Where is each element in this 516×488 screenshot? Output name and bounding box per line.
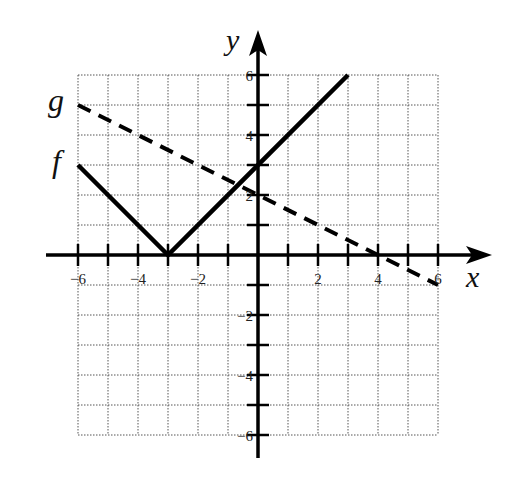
x-tick-label: 4 (374, 271, 382, 287)
function-g-label: g (48, 82, 64, 118)
y-tick-label: 2 (246, 188, 254, 204)
y-tick-label: −2 (237, 308, 253, 324)
x-tick-label: −6 (70, 271, 86, 287)
y-axis-label: y (223, 23, 240, 56)
x-tick-label: 6 (434, 271, 442, 287)
y-tick-label: 6 (246, 68, 254, 84)
y-tick-label: −6 (237, 428, 253, 444)
x-tick-label: 2 (314, 271, 322, 287)
x-axis-label: x (465, 260, 480, 293)
function-f-label: f (52, 143, 65, 179)
x-tick-label: −4 (130, 271, 146, 287)
axes (46, 30, 492, 458)
y-tick-label: −4 (237, 368, 253, 384)
coordinate-plane: −6−4−2246642−2−4−6 y x g f (0, 0, 516, 488)
y-tick-label: 4 (246, 128, 254, 144)
x-tick-label: −2 (190, 271, 206, 287)
